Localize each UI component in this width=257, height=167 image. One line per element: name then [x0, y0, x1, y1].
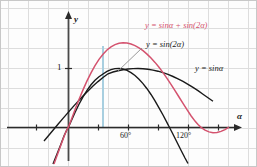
x-tick-label-120: 120°	[176, 132, 191, 140]
trigonometric-graph-figure: y = sinα + sin(2α) y = sin(2α) y = sinα …	[0, 0, 257, 167]
curve-label-sin-alpha: y = sinα	[195, 64, 223, 73]
y-axis-label: y	[74, 15, 78, 24]
leader-line-sin2alpha	[118, 48, 142, 71]
grid-lines	[1, 1, 257, 167]
curve-label-sin-2alpha: y = sin(2α)	[146, 40, 184, 49]
x-axis-arrow	[234, 124, 242, 131]
x-axis-label: α	[237, 112, 242, 121]
x-tick-label-60: 60°	[120, 132, 131, 140]
y-tick-label-one: 1	[57, 63, 62, 72]
graph-canvas	[1, 1, 257, 167]
y-axis-arrow	[65, 11, 72, 19]
curve-label-sum: y = sinα + sin(2α)	[145, 21, 207, 30]
curve-sum	[54, 43, 229, 164]
